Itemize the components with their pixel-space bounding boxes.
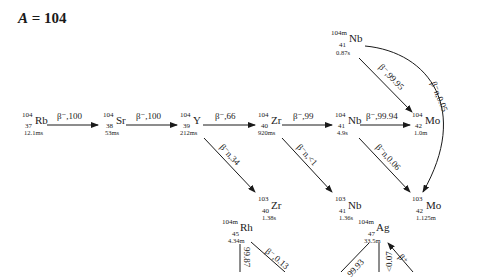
element-symbol: Nb (349, 33, 362, 44)
element-symbol: Rb (35, 115, 48, 126)
half-life: 1.36s (339, 215, 353, 222)
label-sr-y: β⁻,100 (136, 111, 161, 121)
label-zr-nb: β⁻,99 (293, 111, 314, 121)
mass-number: 104 (22, 112, 33, 119)
element-symbol: Mo (426, 200, 441, 211)
half-life: 53ms (105, 130, 119, 137)
half-life: 4.9s (337, 130, 348, 137)
mass-number: 103 (258, 196, 269, 203)
atomic-number: 41 (339, 42, 346, 49)
mass-number: 104m (358, 219, 374, 226)
element-symbol: Sr (116, 115, 126, 126)
half-life: 1.38s (262, 215, 276, 222)
half-life: 1.0m (414, 130, 427, 137)
half-life: 12.1ms (24, 130, 43, 137)
label-rb-sr: β⁻,100 (57, 111, 82, 121)
half-life: 1.125m (416, 215, 436, 222)
element-symbol: Mo (425, 115, 440, 126)
mass-number: 104m (331, 30, 347, 37)
mass-number: 104 (335, 112, 346, 119)
element-symbol: Y (193, 115, 201, 126)
element-symbol: Nb (348, 115, 361, 126)
label-y-zr: β⁻,66 (215, 111, 236, 121)
mass-number: 104 (412, 112, 423, 119)
mass-number: 103 (335, 196, 346, 203)
mass-number: 104 (103, 112, 114, 119)
element-symbol: Rh (240, 222, 253, 233)
label-nb-mo: β⁻,99.94 (366, 111, 398, 121)
half-life: 33.5m (364, 238, 380, 245)
half-life: 4.34m (228, 238, 244, 245)
element-symbol: Zr (271, 115, 281, 126)
label-rh104m-it: 99.87 (242, 247, 252, 267)
mass-number: 104 (258, 112, 269, 119)
element-symbol: Ag (376, 222, 389, 233)
half-life: 212ms (180, 130, 197, 137)
half-life: 920ms (258, 130, 275, 137)
mass-number: 103 (412, 196, 423, 203)
mass-number: 104 (180, 112, 191, 119)
label-ag104m-it: <0.07 (384, 251, 394, 272)
element-symbol: Zr (271, 200, 281, 211)
half-life: 0.87s (336, 50, 350, 57)
mass-number: 104m (222, 219, 238, 226)
arrow-zr-nb103 (282, 138, 332, 192)
element-symbol: Nb (348, 200, 361, 211)
